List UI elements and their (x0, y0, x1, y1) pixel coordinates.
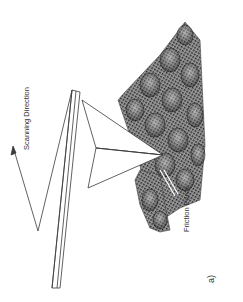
scanning-direction-label: Scanning Direction (22, 87, 31, 150)
atomic-surface-mesh (118, 22, 205, 232)
panel-label: a) (206, 275, 216, 283)
friction-force-label: Friction Force (182, 186, 191, 232)
scanning-direction-arrow (11, 146, 38, 231)
afm-friction-diagram: Scanning Direction Friction Force a) (0, 0, 243, 302)
cantilever (38, 90, 80, 288)
